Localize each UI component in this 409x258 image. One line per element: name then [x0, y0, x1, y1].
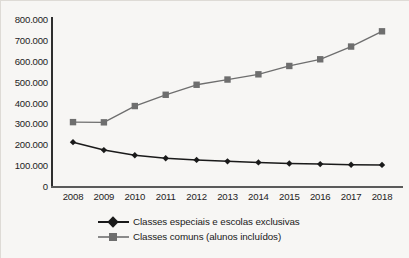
diamond-marker-icon — [98, 216, 129, 228]
data-point-diamond — [132, 152, 138, 158]
legend-label-special: Classes especiais e escolas exclusivas — [129, 216, 300, 227]
data-point-square — [317, 56, 323, 62]
data-point-diamond — [255, 159, 261, 165]
data-point-square — [379, 28, 385, 34]
legend-item-special: Classes especiais e escolas exclusivas — [98, 214, 358, 229]
data-point-diamond — [193, 157, 199, 163]
data-point-square — [255, 71, 261, 77]
data-point-square — [348, 43, 354, 49]
data-point-diamond — [163, 155, 169, 161]
data-point-diamond — [317, 161, 323, 167]
legend-item-common: Classes comuns (alunos incluídos) — [98, 229, 358, 244]
series-special — [70, 139, 385, 168]
data-point-square — [224, 76, 230, 82]
data-point-diamond — [70, 139, 76, 145]
data-point-diamond — [379, 162, 385, 168]
square-marker-icon — [98, 231, 129, 243]
chart-figure: 0100.000200.000300.000400.000500.000600.… — [0, 0, 409, 258]
data-point-square — [70, 119, 76, 125]
data-point-square — [193, 82, 199, 88]
data-point-diamond — [224, 158, 230, 164]
legend-label-common: Classes comuns (alunos incluídos) — [129, 231, 281, 242]
data-point-diamond — [101, 147, 107, 153]
data-point-diamond — [348, 162, 354, 168]
data-point-square — [132, 103, 138, 109]
data-point-diamond — [286, 160, 292, 166]
data-point-square — [286, 63, 292, 69]
chart-legend: Classes especiais e escolas exclusivas C… — [98, 214, 358, 244]
data-point-square — [101, 119, 107, 125]
series-common — [70, 28, 385, 125]
data-point-square — [163, 92, 169, 98]
